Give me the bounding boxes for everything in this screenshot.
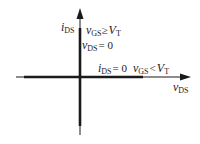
on-l2-op: = 0 <box>99 39 113 51</box>
off-l1-op: = 0 <box>113 62 127 74</box>
off-l2-rhs-sub: T <box>164 67 169 76</box>
y-axis-sub: DS <box>64 26 74 35</box>
on-l2-sub: DS <box>87 44 97 53</box>
off-l2-op: < <box>150 62 156 74</box>
on-l1-op: ≥ <box>102 24 108 36</box>
x-axis-sub: DS <box>178 86 188 95</box>
on-result-label: vDS= 0 <box>82 39 113 55</box>
on-l1-rhs: V <box>109 23 116 37</box>
x-axis-arrow-icon <box>180 74 191 81</box>
y-axis-label: iDS <box>61 21 75 37</box>
off-condition-label: vGS<VT <box>133 62 169 78</box>
off-l2-sub: GS <box>138 67 148 76</box>
y-axis-arrow-icon <box>77 8 84 19</box>
off-l1-sub: DS <box>101 67 111 76</box>
on-l1-rhs-sub: T <box>116 29 121 38</box>
on-l1-sub: GS <box>91 29 101 38</box>
on-condition-label: vGS≥VT <box>86 24 121 40</box>
off-result-label: iDS= 0 <box>98 62 127 78</box>
x-axis-label: vDS <box>173 81 189 97</box>
